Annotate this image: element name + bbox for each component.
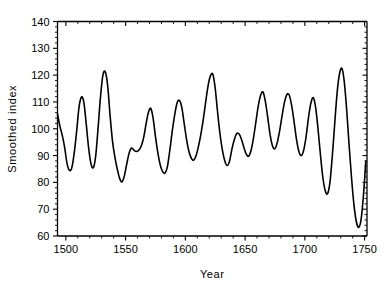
x-axis-title: Year	[200, 268, 225, 280]
line-chart: 6070809010011012013014015001550160016501…	[0, 0, 392, 288]
y-tick-label: 70	[37, 203, 49, 215]
x-tick-label: 1750	[352, 243, 376, 255]
series-line-smoothed-index	[58, 68, 366, 227]
y-tick-label: 110	[32, 96, 50, 108]
y-tick-label: 130	[31, 42, 49, 54]
x-tick-label: 1700	[293, 243, 317, 255]
y-tick-label: 140	[31, 16, 49, 28]
x-tick-label: 1550	[113, 243, 137, 255]
x-tick-label: 1600	[173, 243, 197, 255]
y-axis-title: Smoothed index	[6, 85, 18, 173]
y-tick-label: 60	[37, 230, 49, 242]
x-tick-label: 1650	[233, 243, 257, 255]
y-tick-label: 90	[37, 150, 49, 162]
y-tick-label: 120	[31, 69, 49, 81]
x-tick-label: 1500	[54, 243, 78, 255]
chart-figure: 6070809010011012013014015001550160016501…	[0, 0, 392, 288]
y-tick-label: 80	[37, 176, 49, 188]
y-tick-label: 100	[31, 123, 49, 135]
